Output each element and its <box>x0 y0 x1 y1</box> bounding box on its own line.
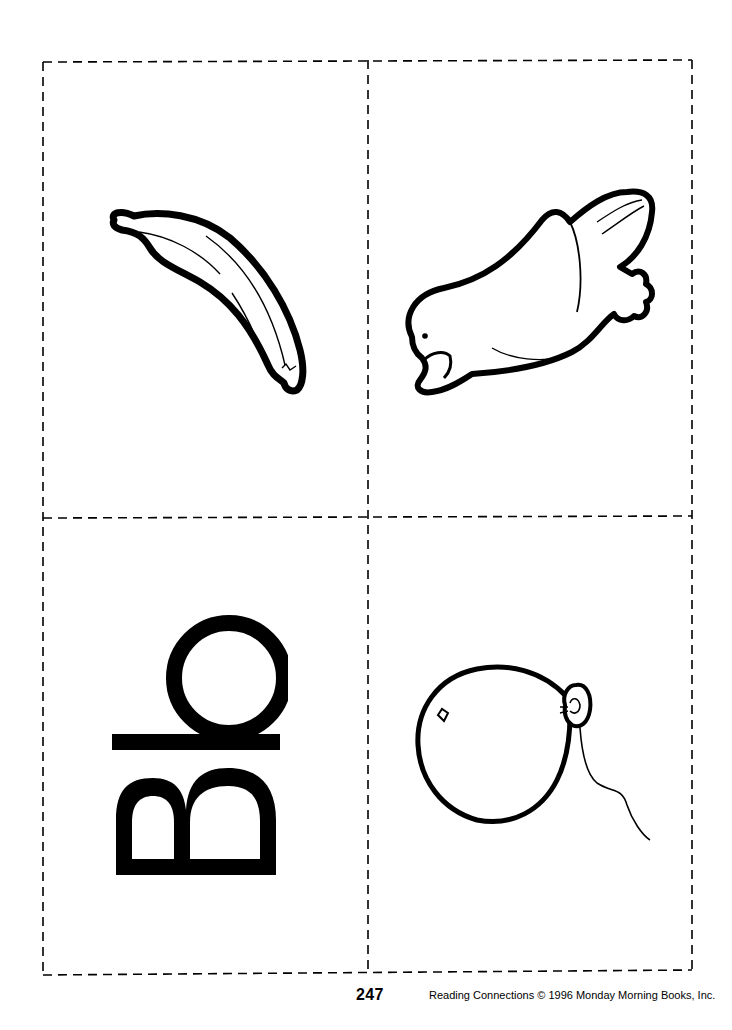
copyright-credit: Reading Connections © 1996 Monday Mornin… <box>429 989 715 1001</box>
letter-b-lowercase-bowl <box>174 623 284 733</box>
balloon-icon <box>402 655 662 855</box>
balloon-string <box>580 728 650 840</box>
banana-icon <box>100 200 315 405</box>
page-number: 247 <box>356 986 384 1004</box>
bird-icon <box>392 182 672 412</box>
letters-bb <box>108 610 288 885</box>
letter-b-lowercase-stem <box>112 734 280 750</box>
worksheet-page: 247 Reading Connections © 1996 Monday Mo… <box>0 0 732 1030</box>
cut-line-bottom <box>43 970 692 975</box>
